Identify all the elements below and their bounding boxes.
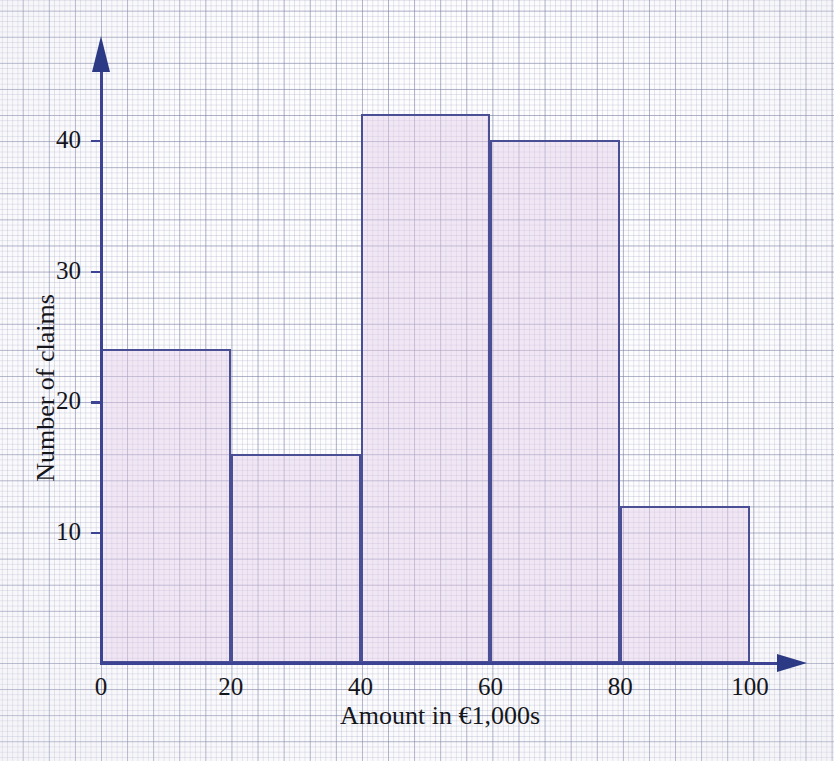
x-tick-label: 20 xyxy=(218,673,243,701)
y-axis-tick xyxy=(91,140,102,142)
x-tick-label: 100 xyxy=(731,673,769,701)
histogram-bar xyxy=(101,349,231,663)
y-axis-line xyxy=(100,68,103,665)
y-axis-tick xyxy=(91,271,102,273)
histogram-bar xyxy=(231,454,361,663)
x-axis-line xyxy=(100,662,780,665)
up-arrow-icon xyxy=(92,36,110,72)
x-tick-label: 0 xyxy=(95,673,108,701)
histogram-bar xyxy=(620,506,750,663)
y-tick-label: 10 xyxy=(23,518,81,546)
histogram-plot: 10203040 020406080100 Amount in €1,000s … xyxy=(0,0,834,761)
x-tick-label: 40 xyxy=(348,673,373,701)
histogram-bar xyxy=(361,114,491,663)
y-axis-tick xyxy=(91,401,102,403)
y-tick-label: 30 xyxy=(23,257,81,285)
x-tick-label: 60 xyxy=(478,673,503,701)
graph-paper-sheet: 10203040 020406080100 Amount in €1,000s … xyxy=(0,0,834,761)
x-tick-label: 80 xyxy=(608,673,633,701)
histogram-bar xyxy=(490,140,620,663)
x-axis-title: Amount in €1,000s xyxy=(340,701,540,731)
right-arrow-icon xyxy=(777,654,807,672)
y-axis-tick xyxy=(91,532,102,534)
y-tick-label: 40 xyxy=(23,126,81,154)
y-axis-title: Number of claims xyxy=(31,294,61,482)
